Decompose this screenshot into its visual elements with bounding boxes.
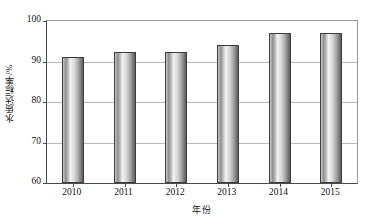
x-axis-tick-label: 2015 bbox=[321, 188, 340, 198]
x-axis-title: 年份 bbox=[46, 203, 358, 216]
bar bbox=[62, 57, 84, 183]
x-axis-tick-labels: 201020112012201320142015 bbox=[46, 188, 358, 202]
bar bbox=[217, 45, 239, 183]
x-axis-tick-label: 2012 bbox=[166, 188, 185, 198]
bar bbox=[165, 52, 187, 183]
x-axis-tick-label: 2010 bbox=[62, 188, 81, 198]
x-axis-tick-label: 2014 bbox=[269, 188, 288, 198]
bars-layer bbox=[47, 21, 357, 183]
y-axis-tick-label: 100 bbox=[27, 15, 41, 25]
x-axis-tick-label: 2011 bbox=[114, 188, 133, 198]
bar bbox=[114, 52, 136, 183]
y-axis-tick-label: 80 bbox=[32, 96, 42, 106]
y-axis-tick-label: 60 bbox=[32, 177, 42, 187]
y-axis-tick-label: 90 bbox=[32, 56, 42, 66]
x-axis-tick-label: 2013 bbox=[217, 188, 236, 198]
y-axis-title: 水质达标率/% bbox=[0, 0, 16, 186]
y-axis-tick-labels: 60708090100 bbox=[16, 14, 44, 186]
bar bbox=[269, 33, 291, 183]
bar bbox=[320, 33, 342, 183]
y-axis-tick-label: 70 bbox=[32, 137, 42, 147]
bar-chart: 水质达标率/% 60708090100 20102011201220132014… bbox=[0, 0, 369, 222]
plot-area bbox=[46, 20, 358, 184]
y-axis-tick-mark bbox=[43, 183, 47, 184]
y-axis-title-text: 水质达标率/% bbox=[2, 64, 15, 123]
